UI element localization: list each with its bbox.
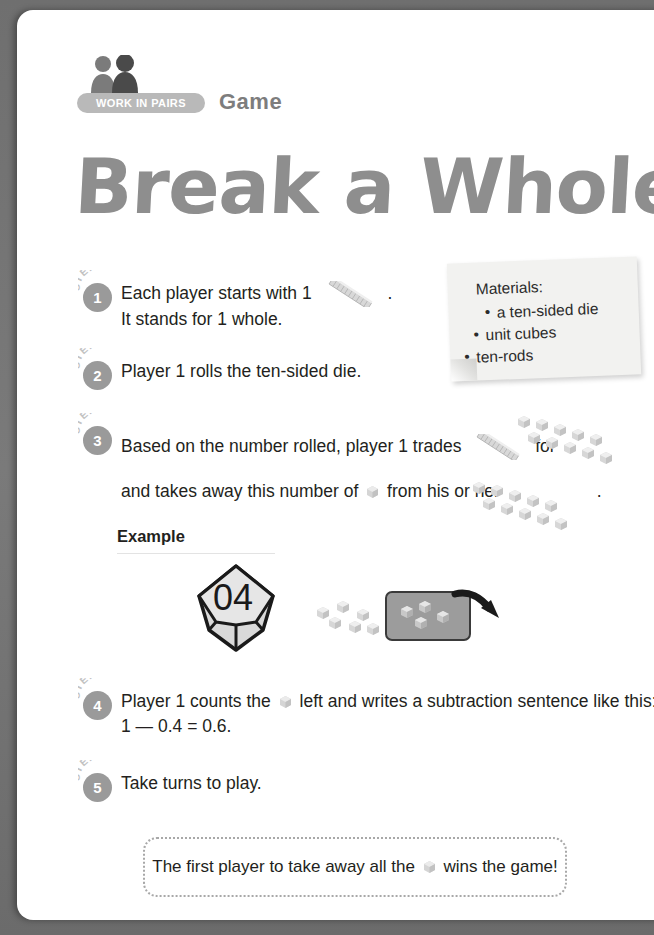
- win-condition-text: The first player to take away all the wi…: [152, 857, 558, 877]
- step-1-line2: It stands for 1 whole.: [121, 309, 282, 329]
- step-badge: STEP 1: [79, 272, 121, 314]
- step-text: Each player starts with 1: [121, 272, 392, 333]
- step-2: STEP 2 Player 1 rolls the ten-sided die.: [79, 350, 361, 392]
- win-text-before: The first player to take away all the: [152, 857, 415, 876]
- win-text-after: wins the game!: [443, 857, 557, 876]
- worksheet-page: WORK IN PAIRS Game Break a Whole! Materi…: [17, 10, 654, 920]
- unit-cube-icon: [422, 859, 437, 874]
- unit-cube-icon: [278, 694, 293, 709]
- step-3-line1-before: Based on the number rolled, player 1 tra…: [121, 436, 461, 456]
- step-badge: STEP 4: [79, 680, 121, 722]
- step-number: 1: [83, 283, 112, 312]
- example-label: Example: [117, 527, 185, 546]
- step-4: STEP 4 Player 1 counts the left and writ…: [79, 680, 654, 740]
- example-divider: [117, 553, 275, 554]
- materials-heading: Materials:: [475, 273, 628, 301]
- step-text: Player 1 rolls the ten-sided die.: [121, 350, 361, 392]
- loose-unit-cubes: [313, 595, 383, 641]
- ten-rod-icon: [321, 281, 379, 307]
- screenshot-root: WORK IN PAIRS Game Break a Whole! Materi…: [0, 0, 654, 935]
- step-text: Player 1 counts the left and writes a su…: [121, 680, 654, 740]
- ten-unit-cubes-cluster: [512, 412, 622, 478]
- die-face-value: 04: [213, 577, 253, 618]
- step-badge: STEP 2: [79, 350, 121, 392]
- step-number: 3: [83, 426, 112, 455]
- step-badge: STEP 3: [79, 415, 121, 457]
- step-4-equation: 1 — 0.4 = 0.6.: [121, 716, 231, 736]
- section-label: Game: [219, 89, 282, 117]
- step-4-line1-before: Player 1 counts the: [121, 691, 271, 711]
- step-number: 2: [83, 361, 112, 390]
- note-curled-corner: [450, 359, 477, 382]
- step-4-line1-after: left and writes a subtraction sentence l…: [300, 691, 654, 711]
- step-number: 5: [83, 773, 112, 802]
- step-5: STEP 5 Take turns to play.: [79, 762, 262, 804]
- page-title: Break a Whole!: [73, 142, 654, 231]
- step-1: STEP 1 Each player starts with 1: [79, 272, 392, 333]
- step-1-line1-before: Each player starts with 1: [121, 283, 312, 303]
- ten-sided-die-icon: 04: [193, 562, 279, 654]
- work-in-pairs-badge: WORK IN PAIRS: [77, 93, 205, 113]
- unit-cube-icon: [365, 484, 380, 499]
- step-1-line1-after: .: [387, 283, 392, 303]
- win-condition-box: The first player to take away all the wi…: [143, 837, 567, 897]
- work-in-pairs-block: WORK IN PAIRS: [77, 55, 205, 117]
- step-text: Take turns to play.: [121, 762, 262, 804]
- page-header: WORK IN PAIRS Game: [77, 55, 282, 117]
- tray-unit-cubes: [397, 598, 459, 636]
- step-badge: STEP 5: [79, 762, 121, 804]
- step-number: 4: [83, 691, 112, 720]
- two-people-icon: [87, 55, 147, 95]
- curved-arrow-icon: [451, 588, 507, 630]
- step-3-line2-before: and takes away this number of: [121, 481, 358, 501]
- ten-unit-cubes-cluster: [467, 478, 577, 544]
- materials-list: a ten-sided die unit cubes ten-rods: [462, 297, 630, 369]
- materials-note: Materials: a ten-sided die unit cubes te…: [447, 256, 641, 381]
- step-3-line2-after: .: [597, 481, 602, 501]
